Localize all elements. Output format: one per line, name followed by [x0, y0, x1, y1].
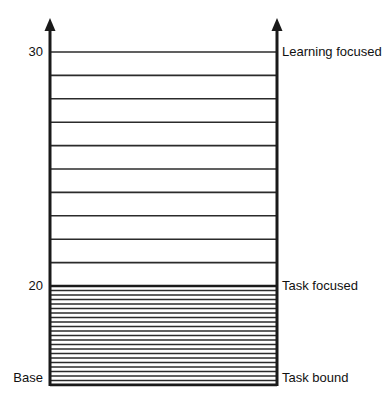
lower-dense-rungs: [50, 291, 277, 381]
anchor-label-learning-focused: Learning focused: [282, 45, 382, 58]
axis-label-base: Base: [0, 371, 43, 384]
upper-sparse-rungs: [50, 52, 277, 263]
arrow-up-icon: [45, 18, 56, 31]
scale-diagram: 30 20 Base Learning focused Task focused…: [0, 0, 384, 411]
arrow-up-icon: [272, 18, 283, 31]
diagram-canvas: [0, 0, 384, 411]
axis-tick-label-20: 20: [0, 279, 43, 292]
axis-tick-label-30: 30: [0, 45, 43, 58]
anchor-label-task-focused: Task focused: [282, 279, 358, 292]
anchor-label-task-bound: Task bound: [282, 371, 349, 384]
